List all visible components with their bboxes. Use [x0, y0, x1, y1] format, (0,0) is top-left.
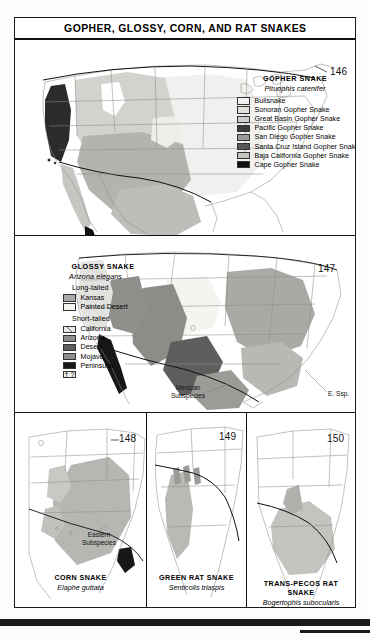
panel-gopher-snake: 146 GOPHER SNAKE Pituophis catenifer Bul… — [15, 40, 355, 236]
legend-swatch — [237, 106, 250, 113]
caption-scientific-name: Senticolis triaspis — [147, 583, 246, 592]
legend-item-label: Painted Desert — [81, 303, 128, 311]
legend-item-label: Pacific Gopher Snake — [255, 124, 324, 132]
legend-item: California — [63, 325, 173, 334]
legend-group-heading: Long-tailed — [72, 283, 173, 292]
trans-pecos-rat-snake-caption: TRANS-PECOS RAT SNAKE Bogertophis subocu… — [247, 579, 355, 607]
legend-swatch — [237, 116, 250, 123]
bottom-rule — [0, 619, 370, 626]
caption-scientific-name: Bogertophis subocularis — [247, 598, 355, 607]
legend-item: Kansas — [63, 294, 173, 303]
legend-swatch — [237, 134, 250, 141]
eastern-subspecies-annotation: E. Ssp. — [328, 390, 349, 398]
legend-item: Great Basin Gopher Snake — [237, 115, 353, 124]
legend-item-label: Great Basin Gopher Snake — [255, 115, 341, 123]
legend-item: Santa Cruz Island Gopher Snake — [237, 142, 353, 151]
legend-item: Bullsnake — [237, 97, 353, 106]
legend-item: Cape Gopher Snake — [237, 160, 353, 169]
gopher-snake-legend: GOPHER SNAKE Pituophis catenifer Bullsna… — [237, 74, 353, 169]
legend-item-label: Desert — [81, 343, 102, 351]
legend-scientific-name: Pituophis catenifer — [237, 84, 353, 93]
map-number-150: 150 — [327, 433, 344, 444]
glossy-snake-legend: GLOSSY SNAKE Arizona elegans Long-tailed… — [63, 262, 173, 379]
page-root: GOPHER, GLOSSY, CORN, AND RAT SNAKES — [0, 0, 370, 643]
legend-item: Arizona — [63, 334, 173, 343]
legend-swatch — [237, 125, 250, 132]
map-number-149: 149 — [219, 431, 236, 442]
caption-name: TRANS-PECOS RAT SNAKE — [250, 579, 353, 597]
legend-item-label: Kansas — [81, 294, 105, 302]
legend-swatch — [237, 152, 250, 159]
panel-green-rat-snake: 149 GREEN RAT SNAKE Senticolis triaspis — [147, 413, 247, 607]
caption-name: GREEN RAT SNAKE — [149, 573, 243, 582]
legend-item-label: Bullsnake — [255, 97, 286, 105]
legend-swatch — [63, 294, 76, 301]
legend-item: Baja California Gopher Snake — [237, 151, 353, 160]
legend-swatch — [237, 97, 250, 104]
legend-item-label: Santa Cruz Island Gopher Snake — [255, 143, 356, 151]
panel-trans-pecos-rat-snake: 150 TRANS-PECOS RAT SNAKE Bogertophis su… — [247, 413, 355, 607]
map-plate: GOPHER, GLOSSY, CORN, AND RAT SNAKES — [14, 17, 356, 608]
green-rat-snake-caption: GREEN RAT SNAKE Senticolis triaspis — [147, 573, 246, 592]
legend-swatch — [237, 143, 250, 150]
legend-item-label: Baja California Gopher Snake — [255, 152, 349, 160]
bottom-rule-secondary — [300, 630, 370, 633]
page-title-banner: GOPHER, GLOSSY, CORN, AND RAT SNAKES — [15, 18, 355, 40]
legend-item: Mojave — [63, 352, 173, 361]
legend-item: Desert — [63, 343, 173, 352]
legend-item-label: California — [81, 325, 111, 333]
legend-title: GLOSSY SNAKE — [72, 262, 171, 271]
panel-corn-snake: 148 EasternSubspecies CORN SNAKE Elaphe … — [15, 413, 147, 607]
map-number-148: 148 — [119, 433, 136, 444]
legend-swatch — [63, 335, 76, 342]
legend-item: Sonoran Gopher Snake — [237, 106, 353, 115]
legend-swatch — [63, 362, 76, 369]
map-number-147: 147 — [318, 263, 335, 274]
legend-group-heading: Short-tailed — [72, 314, 173, 323]
legend-item-label: San Diego Gopher Snake — [255, 133, 336, 141]
page-title: GOPHER, GLOSSY, CORN, AND RAT SNAKES — [64, 22, 306, 34]
corn-snake-caption: CORN SNAKE Elaphe guttata — [15, 573, 146, 592]
legend-swatch — [63, 353, 76, 360]
legend-swatch — [63, 303, 76, 310]
dagger-icon: † — [65, 371, 69, 379]
legend-item-label: Peninsular — [81, 362, 115, 370]
legend-swatch — [63, 344, 76, 351]
legend-title: GOPHER SNAKE — [240, 74, 350, 83]
panel-glossy-snake: 147 MexicanSubspecies E. Ssp. GLOSSY SNA… — [15, 236, 355, 413]
legend-item-label: Sonoran Gopher Snake — [255, 106, 330, 114]
legend-item: Pacific Gopher Snake — [237, 124, 353, 133]
legend-swatch — [237, 161, 250, 168]
caption-scientific-name: Elaphe guttata — [15, 583, 146, 592]
legend-scientific-name: Arizona elegans — [69, 272, 173, 281]
legend-item-unknown: † ? — [63, 370, 173, 379]
legend-item-label: Mojave — [81, 353, 104, 361]
legend-item-label: Cape Gopher Snake — [255, 161, 320, 169]
legend-swatch — [63, 326, 76, 333]
legend-item-label: † ? — [65, 371, 75, 379]
eastern-subspecies-annotation: EasternSubspecies — [77, 531, 121, 547]
legend-item: Peninsular — [63, 361, 173, 370]
legend-item: San Diego Gopher Snake — [237, 133, 353, 142]
mexican-subspecies-annotation: MexicanSubspecies — [167, 384, 209, 400]
legend-item-label: Arizona — [81, 334, 105, 342]
legend-item: Painted Desert — [63, 303, 173, 312]
caption-name: CORN SNAKE — [18, 573, 142, 582]
